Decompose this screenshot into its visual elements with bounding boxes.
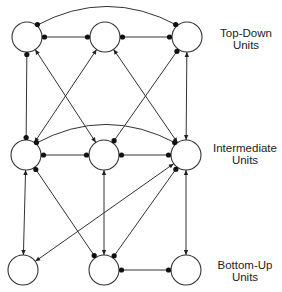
edge-b3-i3-end-arrowhead bbox=[184, 170, 188, 175]
edge-i3-t3-end-arrowhead bbox=[185, 52, 189, 57]
layer-label-top-down: Top-Down Units bbox=[215, 27, 277, 51]
edge-i1-b2-end-dot bbox=[92, 253, 97, 258]
layer-label-bottom-up: Bottom-Up Units bbox=[212, 259, 278, 283]
edge-t2-t3-end-dot bbox=[167, 34, 172, 39]
edge-t1-t2-start-dot bbox=[42, 34, 47, 39]
edge-t3-i2-start-dot bbox=[174, 49, 179, 54]
edge-i1-t2-end-arrowhead bbox=[92, 49, 97, 54]
edge-b3-i3-start-arrowhead bbox=[184, 250, 188, 255]
edge-i2-t1-end-arrowhead bbox=[35, 50, 40, 55]
edge-i3-b1-start-arrowhead bbox=[168, 164, 173, 169]
edge-b2-i2-end-arrowhead bbox=[102, 170, 106, 175]
edge-t1-t3-end-dot bbox=[173, 22, 178, 27]
unit-node-b1 bbox=[8, 255, 38, 285]
edge-b1-i1 bbox=[23, 170, 25, 255]
edge-t1-t2-end-dot bbox=[85, 34, 90, 39]
layer-label-line1: Top-Down bbox=[215, 27, 277, 39]
edge-b1-i1-start-arrowhead bbox=[21, 250, 25, 255]
edge-t2-t3-start-dot bbox=[120, 34, 125, 39]
edge-i3-t3-start-arrowhead bbox=[184, 135, 188, 140]
unit-node-b2 bbox=[89, 255, 119, 285]
edge-i1-i3-start-dot bbox=[34, 140, 39, 145]
edge-i3-t3 bbox=[186, 52, 187, 140]
edge-i3-b2-start-dot bbox=[173, 167, 178, 172]
edge-t1-i1 bbox=[26, 52, 27, 140]
edge-b2-b3-start-dot bbox=[119, 267, 124, 272]
edge-i2-i3-end-dot bbox=[166, 152, 171, 157]
edge-i1-i2-end-dot bbox=[84, 152, 89, 157]
layer-label-line2: Units bbox=[212, 271, 278, 283]
edge-i1-b2 bbox=[34, 167, 95, 257]
edge-t3-i2-end-dot bbox=[111, 138, 116, 143]
edge-i3-b1-end-arrowhead bbox=[35, 257, 40, 262]
edge-i3-t2-end-arrowhead bbox=[113, 49, 118, 54]
edge-b1-i1-end-arrowhead bbox=[23, 170, 27, 175]
layer-label-line2: Units bbox=[208, 154, 282, 166]
layer-label-line1: Intermediate bbox=[208, 142, 282, 154]
edge-t1-i1-start-dot bbox=[24, 52, 29, 57]
edge-i1-i2-start-dot bbox=[41, 152, 46, 157]
layer-label-line1: Bottom-Up bbox=[212, 259, 278, 271]
unit-node-t2 bbox=[90, 22, 120, 52]
nodes-layer bbox=[8, 22, 202, 285]
layer-label-intermediate: Intermediate Units bbox=[208, 142, 282, 166]
edge-i1-i3-end-dot bbox=[172, 140, 177, 145]
edge-i1-b2-start-dot bbox=[33, 167, 38, 172]
edge-t1-i1-end-dot bbox=[24, 135, 29, 140]
edge-b2-i2-start-arrowhead bbox=[102, 250, 106, 255]
edge-i2-t1-start-arrowhead bbox=[91, 137, 96, 142]
edge-b2-b3-end-dot bbox=[166, 267, 171, 272]
unit-node-i2 bbox=[89, 140, 119, 170]
unit-node-b3 bbox=[171, 255, 201, 285]
layer-label-line2: Units bbox=[215, 39, 277, 51]
edge-t1-t3-start-dot bbox=[35, 22, 40, 27]
edge-i2-i3-start-dot bbox=[119, 152, 124, 157]
edge-i3-b2-end-dot bbox=[112, 253, 117, 258]
edge-i3-b2 bbox=[113, 167, 178, 258]
